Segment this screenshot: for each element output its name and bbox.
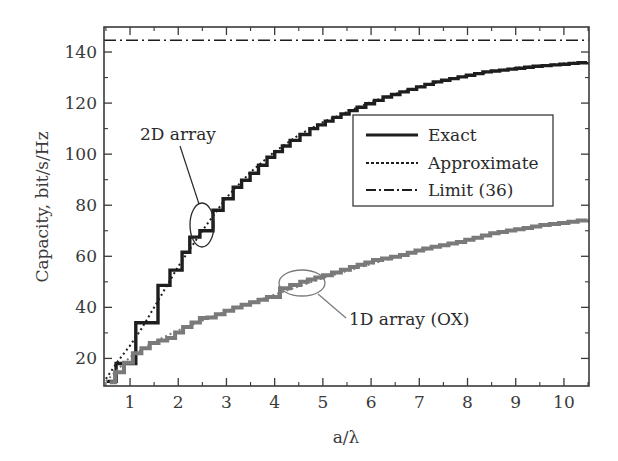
y-tick-label: 20 [75, 348, 97, 368]
x-tick-label: 4 [269, 392, 280, 412]
y-tick-label: 120 [65, 93, 97, 113]
annotation-label-2d: 2D array [140, 124, 216, 144]
annotation-pointer-1d [318, 294, 346, 318]
y-axis-label: Capacity, bit/s/Hz [32, 131, 52, 282]
annotation-pointer-2d [180, 146, 199, 204]
legend-label: Limit (36) [428, 180, 513, 200]
y-tick-label: 140 [65, 42, 97, 62]
x-tick-label: 8 [462, 392, 473, 412]
annotation-ellipse-2d [190, 203, 214, 247]
legend-label: Approximate [427, 153, 539, 173]
x-tick-label: 5 [317, 392, 328, 412]
y-tick-label: 80 [75, 195, 97, 215]
series-layer [104, 40, 589, 382]
y-tick-label: 40 [75, 297, 97, 317]
x-tick-label: 2 [173, 392, 184, 412]
x-tick-label: 9 [510, 392, 521, 412]
y-tick-label: 60 [75, 246, 97, 266]
annotation-label-1d: 1D array (OX) [349, 309, 469, 329]
series-exact-2 [110, 220, 587, 383]
x-tick-label: 1 [125, 392, 136, 412]
legend: ExactApproximateLimit (36) [353, 115, 553, 206]
x-tick-label: 10 [553, 392, 575, 412]
capacity-chart: 1234567891020406080100120140 2D array1D … [0, 0, 618, 461]
x-axis-label: a/λ [333, 427, 360, 447]
series-approx-3 [106, 219, 588, 381]
legend-label: Exact [428, 125, 477, 145]
x-tick-label: 7 [414, 392, 425, 412]
x-tick-label: 3 [221, 392, 232, 412]
y-tick-label: 100 [65, 144, 97, 164]
x-tick-label: 6 [366, 392, 377, 412]
